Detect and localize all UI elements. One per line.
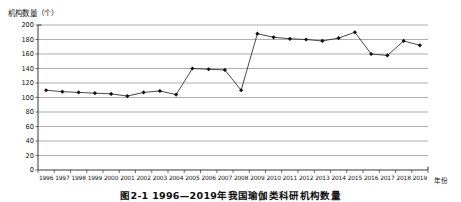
x-tick-label: 1999 — [88, 175, 102, 181]
x-tick-label: 2015 — [348, 175, 362, 181]
y-tick-label: 100 — [10, 94, 34, 102]
data-line — [46, 32, 420, 96]
x-tick-label: 2012 — [299, 175, 313, 181]
x-tick-label: 2010 — [266, 175, 280, 181]
y-tick-label: 120 — [10, 79, 34, 87]
y-tick-label: 140 — [10, 65, 34, 73]
data-point-marker — [272, 35, 276, 39]
x-tick-label: 1996 — [39, 175, 53, 181]
y-tick-label: 80 — [10, 108, 34, 116]
x-tick-label: 2016 — [364, 175, 378, 181]
y-tick-label: 200 — [10, 21, 34, 29]
x-tick-label: 2002 — [136, 175, 150, 181]
figure-container: 机构数量（个） 020406080100120140160180200 1996… — [0, 0, 461, 202]
data-point-marker — [174, 93, 178, 97]
y-tick-label: 40 — [10, 137, 34, 145]
x-tick-label: 2009 — [250, 175, 264, 181]
data-point-marker — [93, 91, 97, 95]
x-tick-label: 2000 — [104, 175, 118, 181]
x-tick-label: 2011 — [283, 175, 297, 181]
x-tick-label: 2007 — [218, 175, 232, 181]
y-tick-label: 0 — [10, 166, 34, 174]
y-tick-label: 180 — [10, 36, 34, 44]
plot-area: 020406080100120140160180200 199619971998… — [0, 0, 461, 202]
x-tick-label: 2004 — [169, 175, 183, 181]
x-tick-label: 2017 — [380, 175, 394, 181]
data-point-marker — [158, 89, 162, 93]
x-axis-title: 年份 — [434, 175, 448, 185]
line-chart — [0, 0, 461, 202]
x-tick-label: 2003 — [153, 175, 167, 181]
y-tick-label: 20 — [10, 152, 34, 160]
x-tick-label: 2019 — [413, 175, 427, 181]
data-point-marker — [60, 90, 64, 94]
data-point-marker — [109, 92, 113, 96]
data-point-marker — [207, 67, 211, 71]
x-tick-label: 2013 — [315, 175, 329, 181]
x-tick-label: 2001 — [120, 175, 134, 181]
data-point-marker — [77, 90, 81, 94]
figure-caption: 图2-1 1996—2019年我国瑜伽类科研机构数量 — [0, 188, 461, 202]
x-tick-label: 2006 — [201, 175, 215, 181]
y-tick-label: 60 — [10, 123, 34, 131]
x-tick-label: 2005 — [185, 175, 199, 181]
data-point-marker — [142, 90, 146, 94]
x-tick-label: 2014 — [331, 175, 345, 181]
x-tick-label: 1998 — [71, 175, 85, 181]
data-point-marker — [288, 37, 292, 41]
data-point-marker — [304, 37, 308, 41]
y-tick-label: 160 — [10, 50, 34, 58]
x-tick-label: 2008 — [234, 175, 248, 181]
x-tick-label: 1997 — [55, 175, 69, 181]
data-point-marker — [44, 88, 48, 92]
data-point-marker — [255, 32, 259, 36]
data-point-marker — [190, 66, 194, 70]
x-tick-label: 2018 — [396, 175, 410, 181]
gridlines-group — [38, 25, 428, 156]
data-point-marker — [418, 43, 422, 47]
data-point-markers-group — [44, 30, 422, 98]
